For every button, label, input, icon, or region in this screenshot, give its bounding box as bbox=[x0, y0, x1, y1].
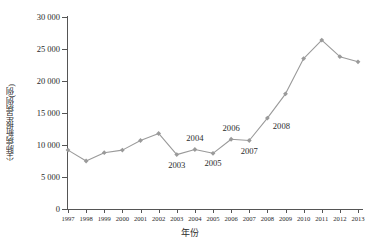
data-point-marker bbox=[138, 138, 143, 143]
annotation-label: 2008 bbox=[273, 122, 290, 131]
annotation-label: 2007 bbox=[241, 147, 258, 156]
data-point-marker bbox=[120, 148, 125, 153]
annotation-label: 2005 bbox=[204, 159, 221, 168]
series-line-chart bbox=[0, 0, 379, 246]
series-markers bbox=[66, 38, 361, 164]
annotation-label: 2006 bbox=[223, 124, 240, 133]
chart-container: 尘肺病新报告病例(例) 05 00010 00015 00020 00025 0… bbox=[0, 0, 379, 246]
data-point-marker bbox=[356, 59, 361, 64]
data-point-marker bbox=[66, 148, 71, 153]
x-axis-title: 年份 bbox=[0, 226, 379, 239]
data-point-marker bbox=[192, 147, 197, 152]
series-polyline bbox=[68, 40, 358, 161]
data-point-marker bbox=[102, 150, 107, 155]
annotation-label: 2003 bbox=[168, 161, 185, 170]
data-point-marker bbox=[84, 159, 89, 164]
annotation-label: 2004 bbox=[186, 134, 203, 143]
